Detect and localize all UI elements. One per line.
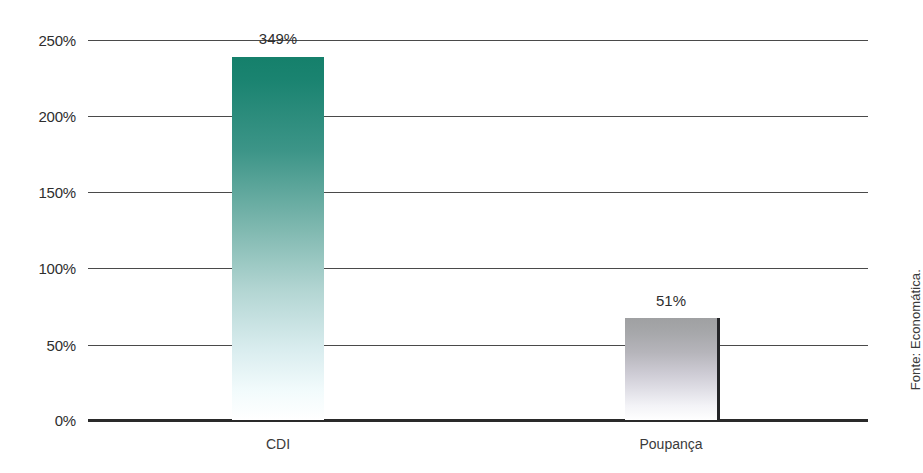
bar-fill-cdi bbox=[232, 57, 324, 420]
bar-value-label-cdi: 349% bbox=[232, 31, 324, 46]
bar-cdi[interactable] bbox=[232, 57, 324, 420]
category-label-poupanca: Poupança bbox=[625, 437, 717, 451]
bar-poupanca[interactable] bbox=[625, 318, 717, 420]
bar-fill-poupanca bbox=[625, 318, 717, 420]
source-note: Fonte: Economática. bbox=[908, 269, 923, 390]
category-label-cdi: CDI bbox=[232, 437, 324, 451]
bar-value-label-poupanca: 51% bbox=[625, 293, 717, 308]
